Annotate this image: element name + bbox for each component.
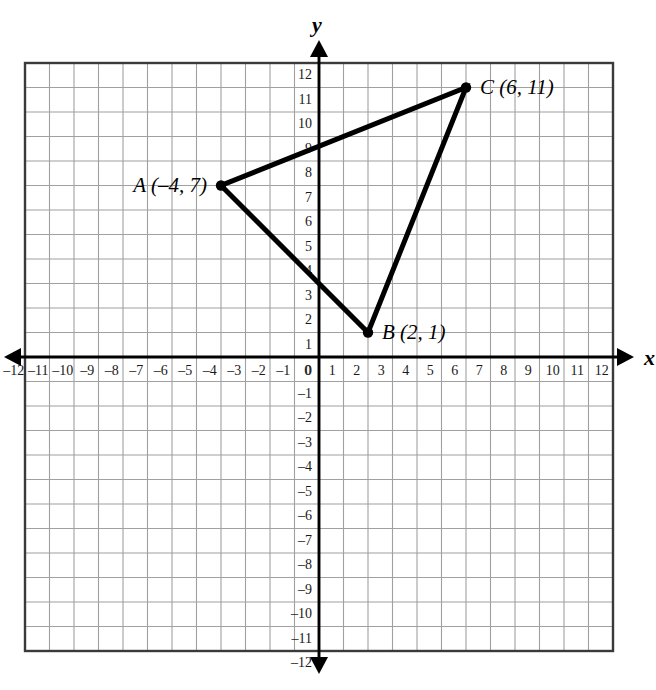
x-tick-label: –3: [226, 363, 241, 378]
x-tick-label: –6: [153, 363, 168, 378]
x-tick-label: –5: [177, 363, 192, 378]
y-tick-label: 5: [305, 239, 312, 254]
y-tick-label: –8: [297, 557, 312, 572]
x-tick-label: 8: [500, 363, 507, 378]
x-tick-label: 7: [476, 363, 483, 378]
y-axis-name: y: [309, 12, 322, 37]
x-tick-label: –9: [79, 363, 94, 378]
x-tick-label: 2: [353, 363, 360, 378]
y-tick-label: –3: [297, 435, 312, 450]
x-tick-label: 4: [402, 363, 409, 378]
y-tick-label: 7: [305, 190, 312, 205]
y-tick-label: 12: [298, 67, 312, 82]
origin-label: 0: [305, 363, 312, 378]
y-tick-label: 6: [305, 214, 312, 229]
vertex-label-a: A (–4, 7): [131, 173, 207, 197]
x-tick-label: –8: [104, 363, 119, 378]
y-tick-label: –6: [297, 508, 312, 523]
y-tick-label: 2: [305, 312, 312, 327]
y-tick-label: 8: [305, 165, 312, 180]
vertex-dot: [363, 327, 373, 337]
y-tick-label: –7: [297, 533, 312, 548]
vertex-dot: [461, 82, 471, 92]
y-tick-label: –11: [291, 631, 312, 646]
graph-canvas: –12–11–10–9–8–7–6–5–4–3–2–10123456789101…: [0, 0, 656, 690]
x-tick-label: 9: [525, 363, 532, 378]
x-tick-label: –2: [251, 363, 266, 378]
x-tick-label: 10: [546, 363, 560, 378]
x-tick-label: –4: [202, 363, 217, 378]
x-tick-label: 3: [378, 363, 385, 378]
y-tick-label: –2: [297, 410, 312, 425]
y-tick-label: –5: [297, 484, 312, 499]
y-tick-label: –10: [290, 606, 312, 621]
vertex-dot: [216, 180, 226, 190]
y-tick-label: –1: [297, 386, 312, 401]
axis-name-labels: yx: [309, 12, 655, 370]
y-tick-label: –4: [297, 459, 312, 474]
coordinate-plane: –12–11–10–9–8–7–6–5–4–3–2–10123456789101…: [0, 0, 656, 690]
x-tick-label: 1: [329, 363, 336, 378]
x-axis-name: x: [643, 345, 655, 370]
vertex-label-c: C (6, 11): [480, 75, 554, 99]
y-tick-label: 10: [298, 116, 312, 131]
x-tick-label: –1: [275, 363, 290, 378]
y-tick-label: –12: [290, 655, 312, 670]
x-tick-label: 5: [427, 363, 434, 378]
y-tick-label: 3: [305, 288, 312, 303]
x-tick-label: 12: [595, 363, 609, 378]
y-tick-label: 11: [299, 92, 312, 107]
y-tick-label: –9: [297, 582, 312, 597]
x-tick-label: –11: [27, 363, 48, 378]
x-tick-label: –12: [2, 363, 24, 378]
x-tick-label: –10: [51, 363, 73, 378]
x-tick-label: 6: [451, 363, 458, 378]
vertex-label-b: B (2, 1): [382, 320, 446, 344]
y-tick-label: 1: [305, 337, 312, 352]
x-tick-label: –7: [128, 363, 143, 378]
x-tick-label: 11: [571, 363, 584, 378]
